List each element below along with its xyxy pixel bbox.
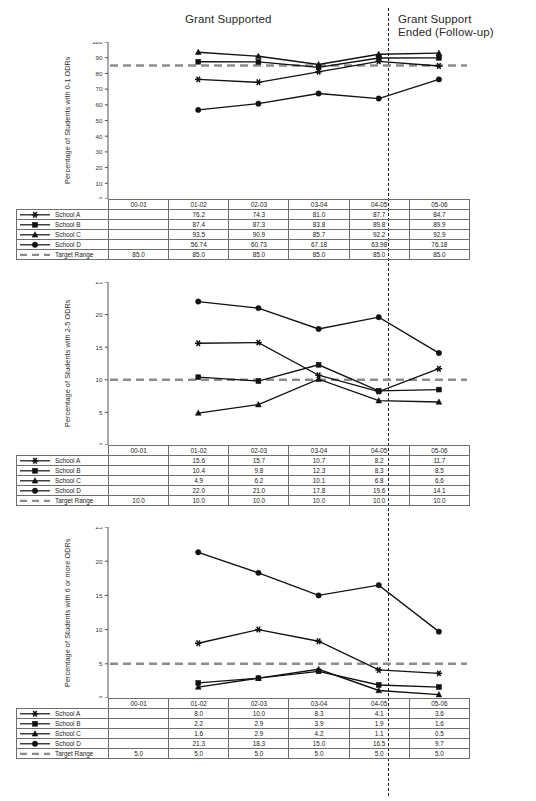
value-cell: 17.8 [289,486,349,496]
value-cell: 11.7 [409,456,469,466]
column-header-04-05: 04-05 [349,699,409,709]
chart-2-5-odrs-plot: Percentage of Students with 2-5 ODRs0510… [0,282,536,445]
value-cell: 3.6 [409,709,469,719]
legend-label: School A [52,457,80,464]
square-marker [437,55,442,60]
circle-marker [18,739,52,748]
legend-cell-school-c: School C [17,230,109,240]
value-cell: 6.8 [349,476,409,486]
triangle-marker [18,729,52,738]
value-cell: 6.6 [409,476,469,486]
value-cell: 87.7 [349,210,409,220]
asterisk-marker [195,340,202,346]
circle-marker [32,488,37,493]
table-corner-cell [17,699,109,709]
value-cell: 87.4 [169,220,229,230]
value-cell: 10.0 [109,496,169,506]
table-corner-cell [17,200,109,210]
table-row: School A76.274.381.087.784.7 [17,210,470,220]
asterisk-marker [436,63,443,69]
value-cell [109,456,169,466]
chart-0-1-odrs-plot: Percentage of Students with 0-1 ODRs0102… [0,42,536,199]
value-cell [109,729,169,739]
legend-label: School C [52,477,81,484]
value-cell: 16.5 [349,739,409,749]
value-cell: 9.7 [409,739,469,749]
chart-0-1-odrs-svg: 0102030405060708090100 [0,42,536,199]
value-cell: 14.1 [409,486,469,496]
y-tick-label: 100 [92,42,103,45]
column-header-01-02: 01-02 [169,446,229,456]
chart-2-5-odrs-svg: 0510152025 [0,282,536,445]
triangle-marker [18,230,52,239]
value-cell: 10.0 [289,496,349,506]
dashed-line-marker [18,749,52,758]
column-header-00-01: 00-01 [109,699,169,709]
value-cell [109,230,169,240]
legend-label: School D [52,740,81,747]
value-cell [109,719,169,729]
asterisk-marker [195,77,202,83]
figure-page: Grant Supported Grant Support Ended (Fol… [0,0,536,801]
asterisk-marker [315,638,322,644]
square-marker [437,685,442,690]
legend-cell-school-a: School A [17,709,109,719]
legend-cell-school-b: School B [17,719,109,729]
circle-marker [376,315,381,320]
y-tick-label: 25 [96,282,103,285]
asterisk-marker [255,79,262,85]
column-header-02-03: 02-03 [229,699,289,709]
circle-marker [376,96,381,101]
legend-label: School D [52,241,81,248]
value-cell [109,210,169,220]
legend-label: Target Range [52,497,93,504]
circle-marker [316,593,321,598]
circle-marker [436,629,441,634]
square-marker [196,59,201,64]
y-tick-label: 60 [96,101,103,108]
value-cell: 8.5 [409,466,469,476]
square-marker [196,375,201,380]
y-tick-label: 90 [96,54,103,61]
value-cell: 5.0 [169,749,229,759]
value-cell [109,739,169,749]
legend-label: Target Range [52,251,93,258]
series-markers-school-d [196,299,442,356]
column-header-05-06: 05-06 [409,699,469,709]
legend-cell-target-range: Target Range [17,250,109,260]
square-marker [33,222,38,227]
value-cell: 8.3 [349,466,409,476]
value-cell: 3.9 [289,719,349,729]
asterisk-marker [18,456,52,465]
value-cell: 85.7 [289,230,349,240]
y-tick-label: 50 [96,117,103,124]
circle-marker [256,101,261,106]
asterisk-marker [18,709,52,718]
legend-label: School A [52,211,80,218]
table-row: School D56.7460.7367.1863.9876.18 [17,240,470,250]
table-row: School A15.615.710.78.211.7 [17,456,470,466]
column-header-02-03: 02-03 [229,446,289,456]
circle-marker [316,326,321,331]
circle-marker [32,741,37,746]
square-marker [18,220,52,229]
value-cell: 15.7 [229,456,289,466]
series-line-school-c [198,379,439,413]
asterisk-marker [195,640,202,646]
value-cell: 10.4 [169,466,229,476]
column-header-03-04: 03-04 [289,446,349,456]
asterisk-marker [436,671,443,677]
y-tick-label: 10 [96,626,103,633]
value-cell: 56.74 [169,240,229,250]
value-cell: 90.9 [229,230,289,240]
value-cell: 85.0 [169,250,229,260]
value-cell: 93.5 [169,230,229,240]
value-cell: 1.1 [349,729,409,739]
table-row: School C93.590.985.792.292.9 [17,230,470,240]
value-cell: 15.0 [289,739,349,749]
circle-marker [436,77,441,82]
y-tick-label: 80 [96,70,103,77]
value-cell: 63.98 [349,240,409,250]
chart-0-1-odrs-data-table: 00-0101-0202-0303-0404-0505-06School A76… [16,199,470,260]
table-row: School B87.487.383.889.889.9 [17,220,470,230]
